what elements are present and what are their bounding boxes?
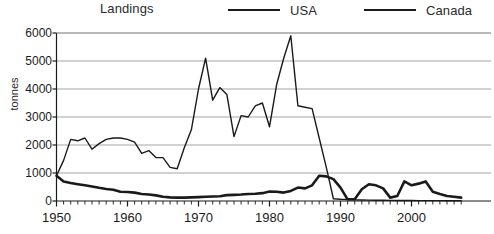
y-tick-label-3000: 3000	[6, 111, 52, 123]
y-tick-label-0: 0	[6, 195, 52, 207]
legend-item-usa: USA	[228, 1, 317, 19]
legend-line-icon-canada	[364, 9, 416, 11]
legend-label-canada: Canada	[426, 3, 472, 18]
y-tick-label-4000: 4000	[6, 83, 52, 95]
x-tick-label-1970: 1970	[169, 210, 229, 225]
legend-line-icon-usa	[228, 9, 280, 11]
y-axis-tick-labels: 0100020003000400050006000	[0, 0, 52, 234]
x-tick-label-1960: 1960	[98, 210, 158, 225]
x-tick-label-2000: 2000	[382, 210, 442, 225]
legend-label-usa: USA	[290, 3, 317, 18]
series-line-canada	[57, 36, 462, 201]
y-tick-label-6000: 6000	[6, 27, 52, 39]
landings-chart-figure: Landings USA Canada tonnes 0100020003000…	[0, 0, 494, 234]
legend-item-canada: Canada	[364, 1, 472, 19]
y-tick-label-5000: 5000	[6, 55, 52, 67]
plot-area	[0, 0, 494, 234]
y-tick-label-1000: 1000	[6, 167, 52, 179]
series-line-usa	[57, 176, 462, 200]
chart-header: Landings USA Canada	[0, 0, 494, 26]
x-tick-label-1980: 1980	[240, 210, 300, 225]
x-tick-label-1990: 1990	[311, 210, 371, 225]
x-tick-label-1950: 1950	[27, 210, 87, 225]
page-title: Landings	[100, 1, 154, 16]
y-tick-label-2000: 2000	[6, 139, 52, 151]
